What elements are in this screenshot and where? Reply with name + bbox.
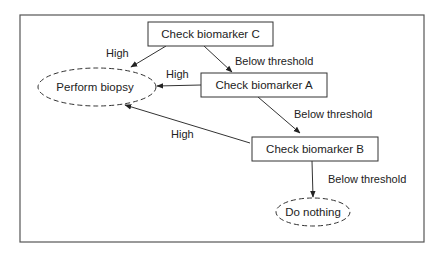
node-perform-biopsy: Perform biopsy [38,68,156,106]
flowchart-canvas: High Below threshold High Below threshol… [0,0,444,254]
edge-a-to-biopsy: High [157,68,201,86]
node-label-nothing: Do nothing [285,206,341,218]
edge-label-a-high: High [166,68,189,80]
node-check-biomarker-c: Check biomarker C [148,22,273,46]
edge-c-to-a: Below threshold [204,46,313,72]
node-label-c: Check biomarker C [161,28,259,40]
edge-label-b-below: Below threshold [328,173,406,185]
node-label-b: Check biomarker B [266,143,364,155]
edge-a-to-b: Below threshold [258,97,372,133]
edge-b-to-nothing: Below threshold [312,161,406,197]
outer-frame [20,15,424,242]
edge-c-to-biopsy: High [106,46,166,67]
node-label-biopsy: Perform biopsy [56,81,134,93]
node-check-biomarker-a: Check biomarker A [201,73,327,97]
edge-label-c-below: Below threshold [235,55,313,67]
edge-label-b-high: High [171,128,194,140]
node-do-nothing: Do nothing [276,198,350,226]
node-check-biomarker-b: Check biomarker B [252,137,378,161]
node-label-a: Check biomarker A [215,79,312,91]
edge-label-a-below: Below threshold [294,108,372,120]
edge-label-c-high: High [106,47,129,59]
edge-b-to-biopsy: High [125,105,250,143]
